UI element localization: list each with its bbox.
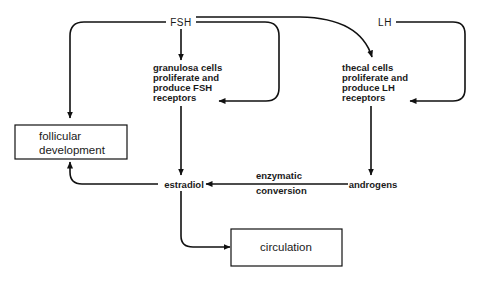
- fsh-label: FSH: [170, 17, 192, 28]
- flow-diagram: FSH LH granulosa cells proliferate and p…: [0, 0, 481, 281]
- edge-lh-to-thecal: [396, 22, 465, 101]
- follicular-text-line-2: development: [39, 144, 106, 156]
- edge-fsh-to-thecal: [196, 17, 372, 57]
- edge-fsh-to-follicular: [70, 22, 166, 118]
- thecal-text-line-4: receptors: [342, 92, 385, 103]
- circulation-label: circulation: [260, 241, 312, 253]
- follicular-text-line-1: follicular: [39, 130, 81, 142]
- granulosa-text-line-4: receptors: [153, 92, 196, 103]
- edge-estradiol-to-circulation: [181, 191, 230, 247]
- lh-label: LH: [378, 17, 392, 28]
- androgens-label: androgens: [349, 179, 398, 190]
- edge-estradiol-to-follicular: [70, 162, 158, 184]
- enzymatic-label: enzymatic: [256, 170, 302, 181]
- conversion-label: conversion: [256, 185, 307, 196]
- estradiol-label: estradiol: [164, 179, 204, 190]
